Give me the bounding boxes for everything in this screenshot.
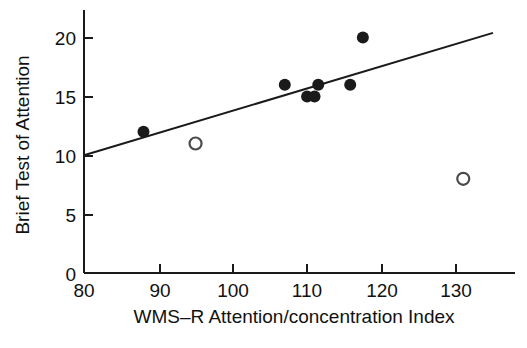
plot-canvas: 20 15 10 5 0 80 90 100 110 120 130 WMS–R…	[0, 0, 527, 348]
x-tick-label-120: 120	[366, 280, 398, 301]
data-point-filled	[137, 126, 149, 138]
data-point-open	[457, 173, 469, 185]
x-tick-label-80: 80	[73, 280, 94, 301]
data-point-open	[190, 138, 202, 150]
x-axis-ticks	[160, 264, 456, 273]
y-tick-label-20: 20	[55, 28, 76, 49]
data-point-filled	[279, 79, 291, 91]
y-axis-ticks	[84, 38, 93, 215]
scatter-plot-figure: 20 15 10 5 0 80 90 100 110 120 130 WMS–R…	[0, 0, 527, 348]
y-axis-title: Brief Test of Attention	[12, 55, 33, 234]
x-tick-label-110: 110	[292, 280, 322, 301]
y-tick-label-5: 5	[65, 205, 76, 226]
x-tick-label-130: 130	[440, 280, 472, 301]
x-tick-label-100: 100	[217, 280, 249, 301]
data-point-filled	[344, 79, 356, 91]
data-point-filled	[312, 79, 324, 91]
data-point-filled	[357, 32, 369, 44]
y-tick-label-15: 15	[55, 87, 76, 108]
data-point-filled	[309, 90, 321, 102]
y-tick-label-10: 10	[55, 146, 76, 167]
x-tick-label-90: 90	[149, 280, 170, 301]
x-axis-title: WMS–R Attention/concentration Index	[133, 306, 455, 327]
